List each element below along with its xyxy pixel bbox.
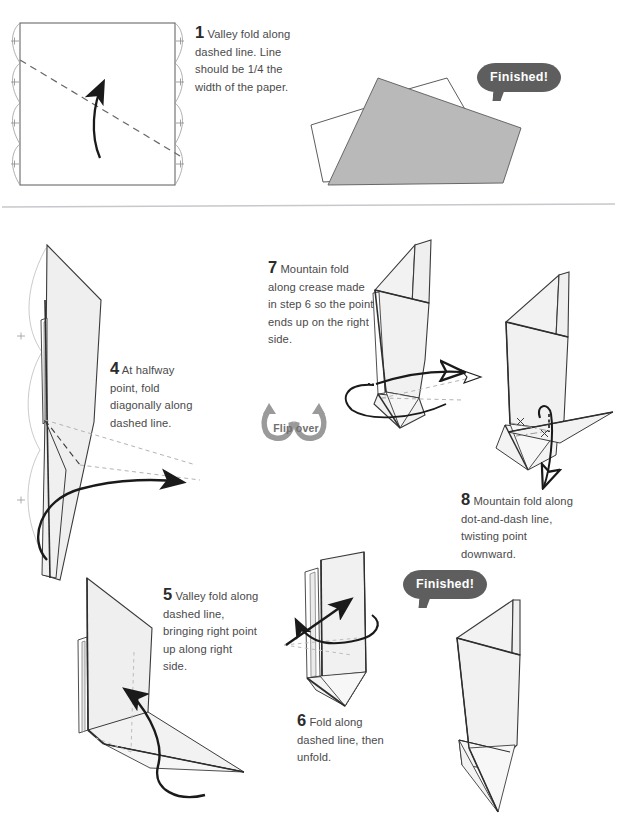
diagram-finished-bottom <box>457 600 520 812</box>
step-4-number: 4 <box>110 359 119 377</box>
step-5-text: 5 Valley fold along dashed line, bringin… <box>163 586 259 676</box>
finished-badge-top: Finished! <box>477 63 561 92</box>
step-6-number: 6 <box>297 711 306 729</box>
step-8-text: 8 Mountain fold along dot-and-dash line,… <box>461 491 574 563</box>
step-5-body: Valley fold along dashed line, bringing … <box>163 590 258 672</box>
diagram-step-8 <box>461 272 613 486</box>
flip-over-annotation: Flip over <box>259 398 333 444</box>
section-divider <box>2 204 615 207</box>
step-4-text: 4 At halfway point, fold diagonally alon… <box>110 360 202 432</box>
step-8-number: 8 <box>461 490 470 508</box>
step-1-number: 1 <box>195 23 204 41</box>
diagram-step-1 <box>11 23 184 185</box>
flip-over-label: Flip over <box>259 422 333 434</box>
step-5-number: 5 <box>163 585 172 603</box>
diagram-finished-top <box>311 78 521 185</box>
instruction-page: 1 Valley fold along dashed line. Line sh… <box>0 0 621 820</box>
finished-badge-bottom: Finished! <box>403 570 487 599</box>
step-7-number: 7 <box>268 258 277 276</box>
step-1-text: 1 Valley fold along dashed line. Line sh… <box>195 24 307 96</box>
step-7-text: 7 Mountain fold along crease made in ste… <box>268 259 376 349</box>
diagram-step-6 <box>284 552 378 706</box>
step-1-body: Valley fold along dashed line. Line shou… <box>195 28 290 93</box>
step-8-body: Mountain fold along dot-and-dash line, t… <box>461 495 573 560</box>
step-6-text: 6 Fold along dashed line, then unfold. <box>297 712 399 767</box>
step-7-body: Mountain fold along crease made in step … <box>268 263 373 345</box>
step-6-body: Fold along dashed line, then unfold. <box>297 716 384 763</box>
step-4-body: At halfway point, fold diagonally along … <box>110 364 192 429</box>
